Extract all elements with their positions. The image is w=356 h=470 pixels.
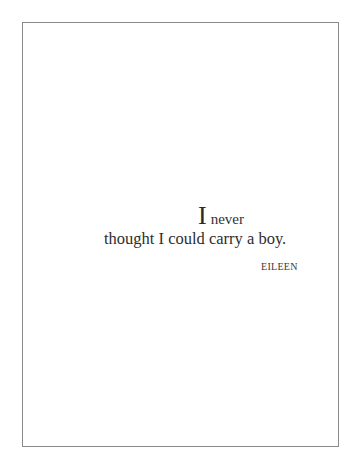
drop-cap: I — [198, 201, 207, 230]
quote-second-line: thought I could carry a boy. — [104, 230, 286, 248]
quote-first-line-text: never — [211, 211, 244, 227]
quote-block: Inever thought I could carry a boy. EILE… — [23, 23, 338, 446]
quote-attribution: EILEEN — [261, 261, 298, 272]
page-frame: Inever thought I could carry a boy. EILE… — [22, 22, 339, 447]
quote-first-line: Inever — [198, 203, 244, 229]
